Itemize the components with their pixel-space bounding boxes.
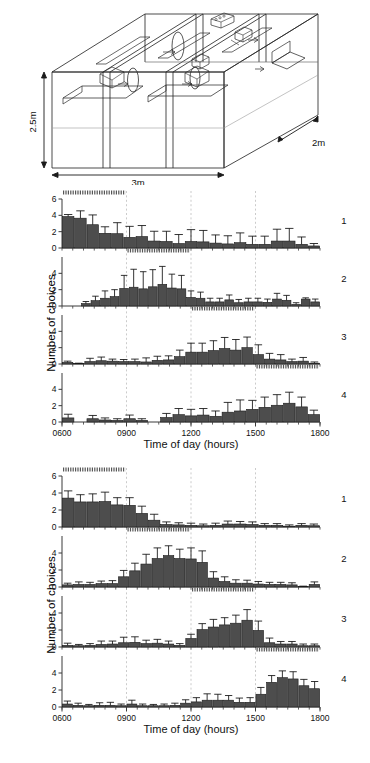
- y-tick-label: 0: [52, 301, 57, 311]
- bar: [148, 706, 158, 707]
- bar: [173, 415, 184, 422]
- bar: [253, 584, 263, 587]
- panel-label-2: 2: [341, 273, 346, 284]
- apparatus-diagram: 2.5m 3m 2m: [0, 0, 370, 185]
- bar: [287, 585, 297, 587]
- bar: [74, 584, 84, 587]
- bar: [87, 225, 98, 248]
- bar: [175, 357, 185, 364]
- bar: [292, 304, 301, 306]
- x-tick-label: 0900: [117, 713, 136, 723]
- dimension-depth-label: 2m: [312, 137, 325, 148]
- panel-label-2: 2: [341, 553, 346, 564]
- bar: [161, 418, 172, 422]
- x-tick-label: 0900: [117, 428, 136, 438]
- bar: [175, 559, 185, 587]
- bar: [148, 241, 159, 248]
- bar: [107, 584, 117, 587]
- bar: [85, 584, 95, 587]
- y-tick-label: 2: [52, 343, 57, 353]
- bar: [110, 297, 119, 306]
- y-tick-label: 4: [52, 668, 57, 678]
- bar: [74, 646, 84, 647]
- y-tick-label: 2: [52, 227, 57, 237]
- bar: [273, 299, 282, 306]
- bar: [127, 704, 137, 707]
- chart-group-b: Number of choices 0246102420243024406000…: [0, 460, 370, 750]
- bar: [309, 646, 319, 647]
- bar: [136, 513, 147, 527]
- bar: [311, 302, 320, 306]
- y-tick-label: 0: [52, 359, 57, 369]
- bar: [101, 298, 110, 306]
- bar: [62, 418, 73, 422]
- x-tick-label: 1200: [182, 428, 201, 438]
- y-tick-label: 6: [52, 194, 57, 204]
- bar: [197, 352, 207, 364]
- bar: [62, 645, 72, 647]
- bar: [158, 284, 167, 306]
- x-tick-label: 1800: [311, 713, 330, 723]
- bar: [231, 350, 241, 364]
- bar: [244, 302, 253, 306]
- bar: [163, 644, 173, 647]
- bar: [271, 525, 282, 527]
- bar: [152, 559, 162, 587]
- bar: [173, 525, 184, 527]
- bar: [245, 702, 255, 707]
- bar: [170, 705, 180, 707]
- bar: [118, 643, 128, 647]
- bar: [87, 502, 98, 527]
- bar: [287, 644, 297, 647]
- bar: [208, 578, 218, 587]
- bar: [198, 526, 209, 527]
- bar: [242, 620, 252, 647]
- y-tick-label: 0: [52, 702, 57, 712]
- bar: [62, 498, 73, 527]
- y-tick-label: 2: [52, 285, 57, 295]
- bar: [224, 700, 234, 707]
- bar: [124, 505, 135, 527]
- bar: [91, 301, 100, 306]
- bar: [95, 705, 105, 707]
- bar: [264, 643, 274, 647]
- bar: [288, 679, 298, 707]
- bar: [161, 524, 172, 527]
- y-tick-label: 2: [52, 685, 57, 695]
- panel-2: 024: [52, 249, 320, 311]
- bar: [264, 359, 274, 364]
- bar: [99, 233, 110, 248]
- bar: [130, 571, 140, 587]
- bar: [99, 420, 110, 422]
- bar: [287, 362, 297, 364]
- bar: [73, 705, 83, 707]
- y-tick-label: 4: [52, 326, 57, 336]
- bar: [75, 502, 86, 527]
- bar: [197, 630, 207, 647]
- bar: [175, 645, 185, 647]
- bar: [210, 416, 221, 422]
- bar: [186, 639, 196, 648]
- bar: [210, 525, 221, 527]
- bar: [308, 526, 319, 527]
- y-tick-label: 0: [52, 522, 57, 532]
- x-tick-label: 1500: [246, 713, 265, 723]
- panel-label-3: 3: [341, 331, 346, 342]
- bar: [247, 524, 258, 527]
- bar: [112, 234, 123, 248]
- bar: [148, 520, 159, 527]
- bar: [271, 405, 282, 422]
- bar: [99, 502, 110, 528]
- bar: [177, 289, 186, 306]
- bar: [120, 288, 129, 306]
- bar: [62, 704, 72, 707]
- bar: [234, 702, 244, 707]
- panel-4: 024: [52, 365, 320, 427]
- bar: [277, 678, 287, 707]
- bar: [222, 524, 233, 527]
- bar: [141, 564, 151, 587]
- bar: [62, 585, 72, 587]
- bar: [152, 360, 162, 364]
- bar: [247, 409, 258, 422]
- bar: [254, 302, 263, 306]
